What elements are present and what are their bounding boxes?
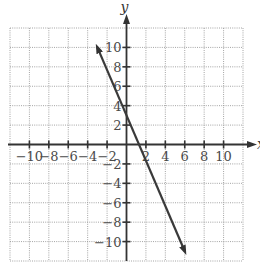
axes — [8, 18, 253, 261]
y-tick-label: 8 — [113, 60, 121, 75]
x-tick-label: 4 — [161, 149, 169, 164]
y-tick-label: 2 — [113, 118, 121, 133]
x-tick-label: −6 — [59, 149, 78, 164]
y-tick-label: −10 — [94, 235, 121, 250]
y-tick-label: −4 — [102, 176, 121, 191]
x-tick-label: 8 — [200, 149, 208, 164]
x-tick-label: 10 — [215, 149, 232, 164]
y-tick-label: −8 — [102, 215, 121, 230]
x-tick-label: 6 — [181, 149, 189, 164]
y-tick-label: 10 — [105, 40, 122, 55]
y-tick-label: −6 — [102, 196, 121, 211]
x-tick-label: −4 — [78, 149, 97, 164]
x-tick-label: −8 — [39, 149, 58, 164]
x-axis-title: x — [257, 136, 260, 152]
y-tick-label: −2 — [102, 157, 121, 172]
y-axis-title: y — [120, 0, 130, 15]
coordinate-plane: −10−8−6−4−2246810108642−2−4−6−8−10 x y — [0, 0, 260, 266]
